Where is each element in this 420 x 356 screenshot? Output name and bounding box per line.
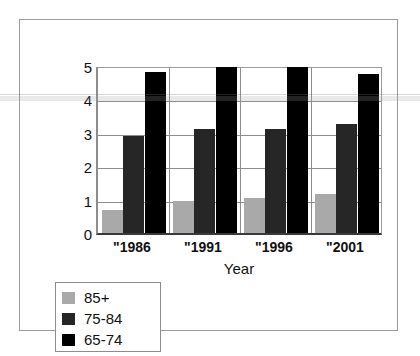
bar-2001-75-84: [336, 124, 357, 233]
plot-area: [96, 67, 382, 235]
y-tick-3: 3: [70, 127, 92, 142]
y-tick-5: 5: [70, 60, 92, 75]
legend: 85+ 75-84 65-74: [55, 282, 161, 352]
x-tick-2001: "2001: [309, 239, 381, 255]
legend-swatch-75-84: [62, 313, 75, 325]
bar-1996-65-74: [287, 67, 308, 233]
legend-label-85plus: 85+: [84, 290, 109, 305]
bar-1986-65-74: [145, 72, 166, 233]
bar-1991-85plus: [173, 201, 194, 233]
legend-item-85plus: 85+: [62, 287, 160, 308]
y-tick-4: 4: [70, 93, 92, 108]
legend-item-65-74: 65-74: [62, 329, 160, 350]
legend-swatch-85plus: [62, 292, 75, 304]
bar-1986-85plus: [102, 210, 123, 233]
x-tick-1991: "1991: [167, 239, 239, 255]
category-separator-2: [240, 68, 241, 233]
legend-label-65-74: 65-74: [84, 332, 122, 347]
x-tick-1986: "1986: [96, 239, 168, 255]
x-axis-title: Year: [96, 260, 382, 277]
y-tick-1: 1: [70, 194, 92, 209]
bar-1996-85plus: [244, 198, 265, 233]
y-tick-0: 0: [70, 227, 92, 242]
y-tick-2: 2: [70, 160, 92, 175]
legend-swatch-65-74: [62, 334, 75, 346]
bar-1991-75-84: [194, 129, 215, 233]
category-separator-3: [311, 68, 312, 233]
bar-2001-85plus: [315, 194, 336, 233]
bar-1996-75-84: [265, 129, 286, 233]
x-tick-1996: "1996: [238, 239, 310, 255]
bar-2001-65-74: [358, 74, 379, 233]
bar-1991-65-74: [216, 67, 237, 233]
chart-frame: 5 4 3 2 1 0: [19, 19, 398, 331]
bar-1986-75-84: [123, 136, 144, 233]
legend-item-75-84: 75-84: [62, 308, 160, 329]
category-separator-1: [169, 68, 170, 233]
legend-label-75-84: 75-84: [84, 311, 122, 326]
